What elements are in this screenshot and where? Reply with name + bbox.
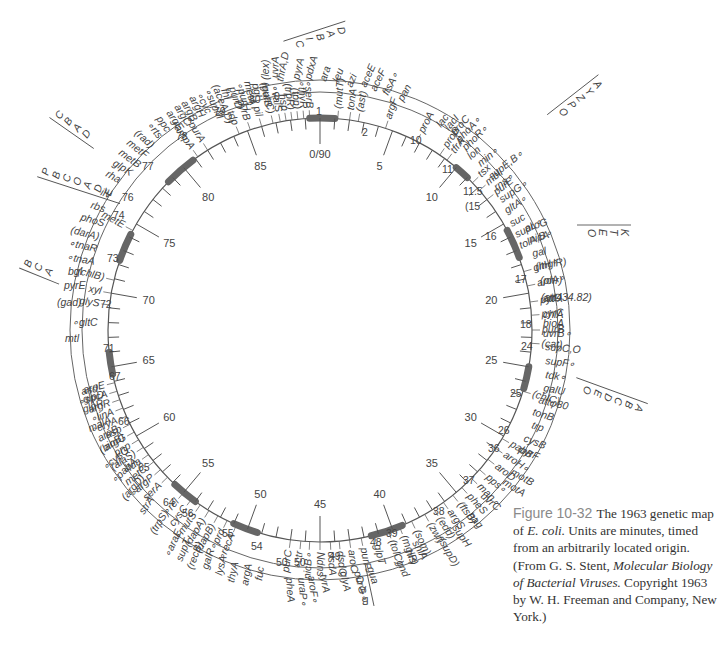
- gene-leader: [285, 113, 286, 121]
- segment-minute-label: 67: [109, 370, 121, 382]
- gene-leader: [127, 432, 134, 436]
- gene-label: pheA: [284, 576, 298, 602]
- gene-leader: [132, 440, 139, 444]
- tick: [262, 523, 265, 534]
- minute-label: 20: [485, 294, 497, 306]
- gene-leader: [103, 292, 111, 293]
- gene-leader: [523, 391, 531, 393]
- gene-label: supF∘: [545, 354, 577, 370]
- segment-minute-label: 64: [163, 496, 175, 508]
- gene-leader: [440, 148, 445, 155]
- segment-minute-label: 36: [488, 442, 500, 454]
- gene-leader: [162, 477, 168, 483]
- segment-minute-label: 65: [138, 461, 150, 473]
- gene-leader: [487, 195, 493, 200]
- gene-leader: [107, 383, 115, 385]
- gene-leader: [524, 269, 532, 271]
- figure-number: Figure 10-32: [513, 505, 592, 521]
- minute-label: 55: [202, 457, 214, 469]
- segment-minute-label: 74: [113, 209, 125, 221]
- segment-minute-label: 11: [442, 163, 453, 175]
- gene-leader: [303, 111, 304, 119]
- gene-leader: [338, 111, 339, 119]
- gene-leader: [339, 541, 340, 549]
- segment-minute-label: 54: [251, 540, 263, 552]
- gene-leader: [291, 112, 292, 120]
- tick: [478, 454, 487, 461]
- segment-minute-label: 56: [182, 507, 194, 519]
- tick: [118, 264, 128, 267]
- gene-leader: [447, 154, 452, 160]
- segment-minute-label: 17: [515, 273, 527, 285]
- tick: [469, 464, 477, 471]
- gene-label: trp: [530, 418, 546, 433]
- tick: [173, 475, 181, 483]
- gene-label: glyS: [79, 294, 101, 308]
- gene-leader: [531, 315, 539, 316]
- minute-label: 80: [202, 191, 214, 203]
- thick-region: [310, 118, 335, 119]
- operon-gene: O: [586, 229, 598, 237]
- gene-leader: [480, 470, 486, 475]
- outer-gene-labels: 7980012101111.5(151617182425263637383948…: [57, 50, 592, 607]
- tick: [375, 126, 378, 137]
- segment-minute-label: (15: [465, 200, 480, 212]
- tick: [123, 405, 133, 409]
- gene-label: uraP∘: [296, 577, 311, 607]
- tick: [438, 493, 444, 502]
- tick: [144, 442, 153, 448]
- thick-region: [175, 485, 196, 502]
- gene-label: glyA: [338, 570, 354, 592]
- gene-leader: [137, 447, 144, 451]
- gene-leader: [412, 521, 415, 528]
- tick: [506, 405, 516, 409]
- tick: [234, 136, 238, 146]
- minute-label: 10: [426, 191, 438, 203]
- operon-bar: [547, 75, 598, 115]
- segment-minute-label: 1: [316, 105, 322, 117]
- gene-label: gal: [531, 244, 548, 259]
- segment-minute-label: 73: [107, 252, 119, 264]
- gene-leader: [350, 112, 351, 120]
- gene-label: xyl: [87, 282, 103, 296]
- gene-leader: [297, 111, 298, 119]
- segment-minute-label: 48: [370, 536, 382, 548]
- segment-minute-label: 18: [520, 318, 532, 330]
- gene-leader: [271, 115, 273, 123]
- segment-minute-label: 26: [498, 424, 510, 436]
- tick: [136, 224, 159, 237]
- gene-label: pyrE: [63, 279, 87, 291]
- tick: [195, 158, 201, 167]
- gene-leader: [473, 177, 479, 183]
- tick: [162, 188, 170, 195]
- gene-leader: [259, 119, 261, 127]
- minute-label: 25: [485, 354, 497, 366]
- segment-minute-label: 50: [294, 556, 306, 568]
- segment-minute-label: 16: [485, 230, 497, 242]
- gene-leader: [361, 538, 363, 546]
- tick: [208, 150, 214, 159]
- segment-minute-label: 77: [142, 160, 154, 172]
- segment-minute-label: 39: [386, 527, 398, 539]
- segment-minute-label: 72: [100, 298, 112, 310]
- segment-minute-label: 55: [222, 527, 234, 539]
- tick: [247, 131, 256, 155]
- ara-operon: DABIC: [283, 21, 349, 52]
- gene-label: mtl: [65, 332, 80, 344]
- gene-leader: [350, 540, 351, 548]
- gene-leader: [300, 541, 301, 549]
- segment-minute-label: 76: [122, 191, 134, 203]
- minute-label: 65: [143, 354, 155, 366]
- gene-leader: [453, 495, 458, 501]
- gene-label: uvrA: [268, 56, 281, 78]
- gene-leader: [425, 514, 429, 521]
- gene-leader: [196, 505, 201, 512]
- gene-leader: [527, 284, 535, 286]
- gal-operon: KTEO: [577, 225, 631, 237]
- tick: [144, 211, 153, 217]
- tick: [362, 527, 364, 538]
- operon-gene: A: [41, 266, 55, 278]
- minute-label: 70: [143, 294, 155, 306]
- tick: [153, 199, 162, 206]
- figure-caption: Figure 10-32The 1963 genetic map of E. c…: [513, 505, 718, 625]
